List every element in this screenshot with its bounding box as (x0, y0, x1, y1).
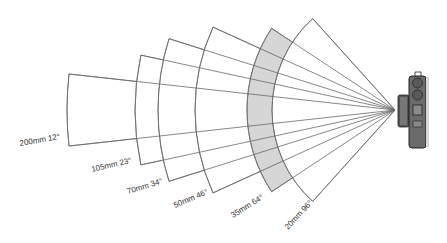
field-of-view-wedges (67, 19, 395, 202)
label-105mm: 105mm 23° (90, 156, 132, 174)
label-35mm: 35mm 64° (229, 193, 265, 220)
wedge-20mm (272, 19, 395, 202)
label-20mm: 20mm 96° (283, 198, 315, 231)
label-70mm: 70mm 34° (126, 177, 164, 196)
lens-field-of-view-diagram: 200mm 12°105mm 23°70mm 34°50mm 46°35mm 6… (0, 0, 447, 243)
camera-icon (398, 72, 429, 148)
label-50mm: 50mm 46° (172, 187, 209, 210)
label-200mm: 200mm 12° (19, 132, 61, 148)
